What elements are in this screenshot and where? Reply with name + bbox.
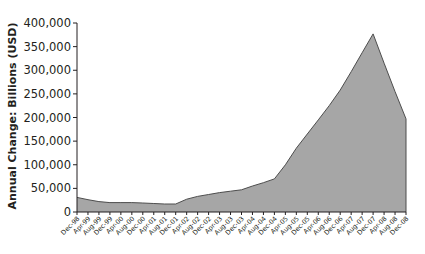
x-axis: Dec-98Apr-99Aug-99Dec-99Apr-00Aug-00Dec-… — [59, 212, 410, 237]
y-tick-label: 150,000 — [23, 134, 71, 148]
area-chart: 050,000100,000150,000200,000250,000300,0… — [0, 0, 425, 254]
y-axis: 050,000100,000150,000200,000250,000300,0… — [23, 16, 77, 219]
y-tick-label: 0 — [64, 205, 71, 219]
y-tick-label: 50,000 — [31, 181, 71, 195]
plot-area — [77, 34, 406, 212]
y-tick-label: 350,000 — [23, 40, 71, 54]
y-axis-label: Annual Change: Billions (USD) — [6, 22, 19, 209]
y-tick-label: 300,000 — [23, 63, 71, 77]
y-tick-label: 250,000 — [23, 87, 71, 101]
y-tick-label: 100,000 — [23, 158, 71, 172]
y-tick-label: 400,000 — [23, 16, 71, 30]
y-tick-label: 200,000 — [23, 111, 71, 125]
area-fill — [77, 34, 406, 212]
